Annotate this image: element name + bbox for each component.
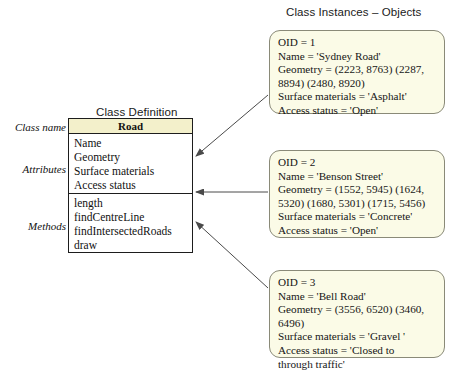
instance-line: Name = 'Benson Street': [278, 170, 437, 184]
attribute-item: Geometry: [74, 150, 192, 164]
side-label-attributes: Attributes: [4, 163, 66, 175]
instance-line: Geometry = (2223, 8763) (2287,: [278, 63, 437, 77]
class-definition-title: Class Definition: [96, 106, 178, 118]
instance-line: Name = 'Bell Road': [278, 290, 437, 304]
instance-line: through traffic': [278, 358, 437, 372]
side-label-methods: Methods: [4, 220, 66, 232]
instance-line: Geometry = (3556, 6520) (3460,: [278, 303, 437, 317]
instance-line: OID = 3: [278, 276, 437, 290]
class-instances-title: Class Instances – Objects: [286, 6, 421, 18]
instance-line: OID = 1: [278, 36, 437, 50]
side-label-class-name: Class name: [4, 121, 66, 133]
instance-box-2: OID = 2 Name = 'Benson Street' Geometry …: [269, 150, 445, 238]
instance-line: Geometry = (1552, 5945) (1624,: [278, 183, 437, 197]
method-item: length: [74, 196, 192, 210]
instance-line: Access status = 'Closed to: [278, 344, 437, 358]
instance-line: Name = 'Sydney Road': [278, 50, 437, 64]
instance-line: OID = 2: [278, 156, 437, 170]
instance-box-1: OID = 1 Name = 'Sydney Road' Geometry = …: [269, 30, 445, 114]
instance-line: Surface materials = 'Concrete': [278, 210, 437, 224]
attribute-item: Name: [74, 136, 192, 150]
instance-line: Surface materials = 'Gravel ': [278, 330, 437, 344]
method-item: draw: [74, 238, 192, 252]
method-item: findIntersectedRoads: [74, 224, 192, 238]
class-name-cell: Road: [69, 119, 192, 134]
instance-line: Access status = 'Open': [278, 224, 437, 238]
instance-box-3: OID = 3 Name = 'Bell Road' Geometry = (3…: [269, 270, 445, 358]
instance-line: 5320) (1680, 5301) (1715, 5456): [278, 197, 437, 211]
connector-instance-3: [196, 222, 268, 288]
instance-line: Access status = 'Open': [278, 104, 437, 118]
class-definition-box: Road Name Geometry Surface materials Acc…: [68, 118, 193, 253]
connector-instance-1: [196, 95, 268, 156]
method-item: findCentreLine: [74, 210, 192, 224]
instance-line: 6496): [278, 317, 437, 331]
class-methods-section: length findCentreLine findIntersectedRoa…: [69, 194, 192, 253]
attribute-item: Access status: [74, 178, 192, 192]
diagram-canvas: Class Instances – Objects Class Definiti…: [0, 0, 457, 378]
instance-line: 8894) (2480, 8920): [278, 77, 437, 91]
attribute-item: Surface materials: [74, 164, 192, 178]
class-attributes-section: Name Geometry Surface materials Access s…: [69, 134, 192, 194]
instance-line: Surface materials = 'Asphalt': [278, 90, 437, 104]
